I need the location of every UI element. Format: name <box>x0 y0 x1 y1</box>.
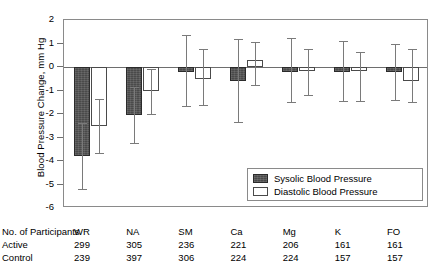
table-cell: 157 <box>335 252 375 263</box>
table-cell: 239 <box>74 252 114 263</box>
table-cell: 157 <box>387 252 427 263</box>
table-cell: 224 <box>231 252 271 263</box>
table-row: No. of Participants WRNASMCaMgKFO <box>2 226 434 239</box>
table-row: Active 299305236221206161161 <box>2 239 434 252</box>
error-cap <box>199 49 208 50</box>
error-cap <box>408 102 417 103</box>
error-bar-k-systolic <box>343 41 344 101</box>
bar-group-sm <box>168 20 220 208</box>
error-cap <box>78 189 87 190</box>
error-bar-mg-diastolic <box>308 49 309 95</box>
error-bar-wr-systolic <box>82 123 83 189</box>
table-cell: 305 <box>126 239 166 250</box>
error-bar-fo-systolic <box>395 44 396 100</box>
y-axis-tick-label: -4 <box>2 155 54 164</box>
error-bar-ca-systolic <box>238 39 239 122</box>
table-column-header-wr: WR <box>74 226 114 237</box>
error-cap <box>251 42 260 43</box>
error-cap <box>287 102 296 103</box>
error-cap <box>147 114 156 115</box>
error-bar-na-systolic <box>134 87 135 143</box>
y-axis-tick-label: -6 <box>2 202 54 211</box>
error-cap <box>130 143 139 144</box>
error-bar-k-diastolic <box>360 52 361 101</box>
y-axis-tick-label: -2 <box>2 108 54 117</box>
y-axis-tick-label: -1 <box>2 85 54 94</box>
table-column-header-ca: Ca <box>231 226 271 237</box>
error-bar-mg-systolic <box>291 38 292 103</box>
error-cap <box>199 105 208 106</box>
table-cell: 224 <box>283 252 323 263</box>
error-bar-wr-diastolic <box>99 99 100 153</box>
legend-label-systolic: Sysolic Blood Pressure <box>274 173 372 184</box>
error-cap <box>95 99 104 100</box>
table-cell: 161 <box>335 239 375 250</box>
error-cap <box>130 87 139 88</box>
table-column-header-fo: FO <box>387 226 427 237</box>
participants-table: No. of Participants WRNASMCaMgKFO Active… <box>2 226 434 265</box>
table-column-header-sm: SM <box>178 226 218 237</box>
error-cap <box>182 35 191 36</box>
error-cap <box>95 153 104 154</box>
y-axis-tick-label: 1 <box>2 38 54 47</box>
error-bar-ca-diastolic <box>255 42 256 84</box>
legend-swatch-diastolic-icon <box>253 187 268 196</box>
error-cap <box>182 106 191 107</box>
table-cell: 236 <box>178 239 218 250</box>
error-cap <box>408 49 417 50</box>
error-bar-fo-diastolic <box>412 49 413 102</box>
error-cap <box>339 101 348 102</box>
error-cap <box>251 85 260 86</box>
legend-label-diastolic: Diastolic Blood Pressure <box>274 186 378 197</box>
table-row-label-control: Control <box>2 252 33 263</box>
error-bar-sm-diastolic <box>203 49 204 104</box>
legend-swatch-systolic-icon <box>253 174 268 183</box>
error-cap <box>287 38 296 39</box>
table-cell: 306 <box>178 252 218 263</box>
bar-group-wr <box>64 20 116 208</box>
chart-figure: Blood Pressure Change, mm Hg 210-1-2-3-4… <box>0 0 436 270</box>
error-cap <box>356 101 365 102</box>
table-cell: 397 <box>126 252 166 263</box>
table-column-header-k: K <box>335 226 375 237</box>
y-axis-tick-label: -5 <box>2 179 54 188</box>
y-axis-tick-label: 2 <box>2 14 54 23</box>
table-cell: 206 <box>283 239 323 250</box>
legend-item-diastolic: Diastolic Blood Pressure <box>253 185 418 198</box>
y-axis-tick-label: -3 <box>2 132 54 141</box>
bar-group-na <box>116 20 168 208</box>
error-cap <box>147 69 156 70</box>
error-bar-na-diastolic <box>151 69 152 114</box>
table-column-header-na: NA <box>126 226 166 237</box>
table-cell: 299 <box>74 239 114 250</box>
y-axis-tick-label: 0 <box>2 61 54 70</box>
error-cap <box>234 122 243 123</box>
table-header-label: No. of Participants <box>2 226 80 237</box>
legend: Sysolic Blood Pressure Diastolic Blood P… <box>247 168 423 201</box>
table-cell: 161 <box>387 239 427 250</box>
table-cell: 221 <box>231 239 271 250</box>
error-bar-sm-systolic <box>186 35 187 106</box>
table-column-header-mg: Mg <box>283 226 323 237</box>
error-cap <box>339 41 348 42</box>
error-cap <box>356 52 365 53</box>
error-cap <box>78 123 87 124</box>
error-cap <box>391 100 400 101</box>
table-row-label-active: Active <box>2 239 28 250</box>
error-cap <box>391 44 400 45</box>
table-row: Control 239397306224224157157 <box>2 252 434 265</box>
error-cap <box>234 39 243 40</box>
error-cap <box>304 95 313 96</box>
error-cap <box>304 49 313 50</box>
legend-item-systolic: Sysolic Blood Pressure <box>253 172 418 185</box>
